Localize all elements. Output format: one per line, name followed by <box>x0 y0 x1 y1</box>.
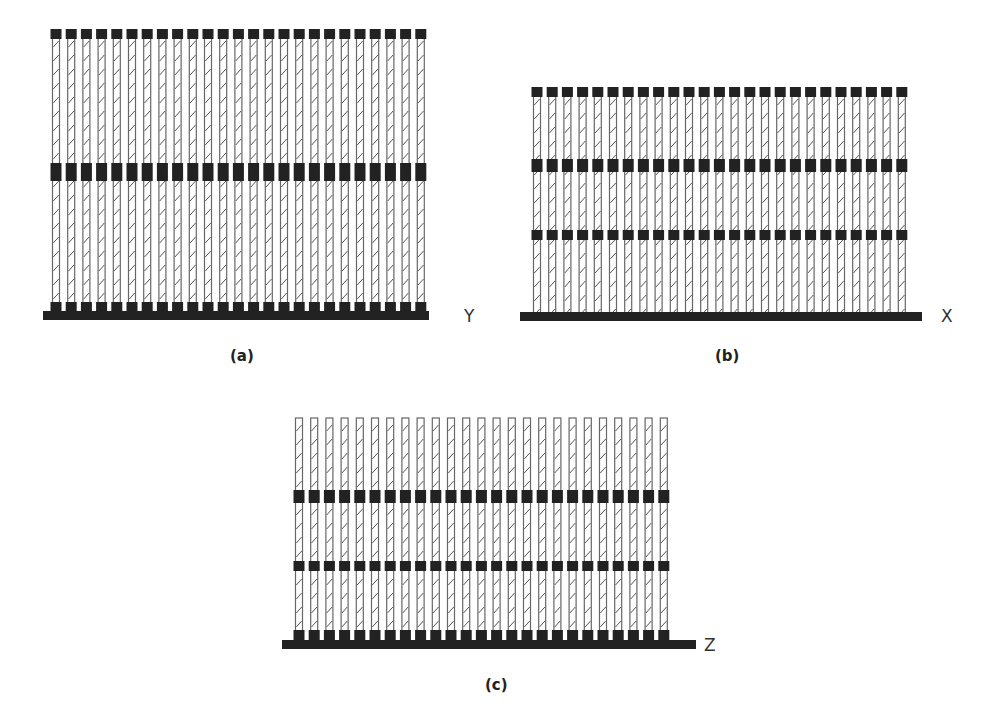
column <box>716 92 723 315</box>
block <box>714 230 725 240</box>
block <box>643 490 654 503</box>
block <box>430 561 441 571</box>
block <box>608 87 619 97</box>
block <box>896 87 907 97</box>
block <box>577 159 588 172</box>
block <box>668 159 679 172</box>
block <box>613 561 624 571</box>
block <box>187 163 198 181</box>
block <box>836 159 847 172</box>
block <box>370 561 381 571</box>
block <box>339 29 350 39</box>
block <box>491 490 502 503</box>
block <box>851 230 862 240</box>
block <box>547 87 558 97</box>
column <box>615 418 622 641</box>
caption-b: (b) <box>715 347 739 365</box>
substrate-base <box>43 311 429 320</box>
column <box>564 92 571 315</box>
block <box>370 29 381 39</box>
block <box>476 490 487 503</box>
bottom-block <box>324 630 335 641</box>
column <box>868 92 875 315</box>
block <box>532 159 543 172</box>
column <box>686 92 693 315</box>
bottom-block <box>658 630 669 641</box>
block <box>638 87 649 97</box>
block <box>744 87 755 97</box>
column <box>807 92 814 315</box>
block <box>729 87 740 97</box>
bottom-block <box>628 630 639 641</box>
bottom-block <box>370 630 381 641</box>
column <box>731 92 738 315</box>
bottom-block <box>598 630 609 641</box>
block <box>592 159 603 172</box>
column <box>838 92 845 315</box>
block <box>491 561 502 571</box>
block <box>324 163 335 181</box>
axis-label-z: Z <box>704 635 716 655</box>
block <box>339 561 350 571</box>
block <box>400 29 411 39</box>
block <box>355 163 366 181</box>
column <box>448 418 455 641</box>
block <box>172 29 183 39</box>
block <box>537 490 548 503</box>
block <box>658 561 669 571</box>
block <box>415 490 426 503</box>
bottom-block <box>461 630 472 641</box>
figure-diagram: Y (a) X (b) Z (c) <box>0 0 992 710</box>
block <box>790 159 801 172</box>
block <box>522 561 533 571</box>
column <box>625 92 632 315</box>
block <box>562 87 573 97</box>
block <box>309 29 320 39</box>
bottom-block <box>537 630 548 641</box>
block <box>592 230 603 240</box>
block <box>638 159 649 172</box>
column <box>746 92 753 315</box>
bottom-block <box>354 630 365 641</box>
block <box>790 230 801 240</box>
block <box>446 490 457 503</box>
block <box>760 230 771 240</box>
block <box>658 490 669 503</box>
block <box>613 490 624 503</box>
column <box>610 92 617 315</box>
block <box>684 230 695 240</box>
column <box>898 92 905 315</box>
block <box>430 490 441 503</box>
block <box>400 490 411 503</box>
block <box>96 29 107 39</box>
block <box>51 163 62 181</box>
column <box>417 418 424 641</box>
block <box>836 87 847 97</box>
axis-label-x: X <box>941 306 953 326</box>
block <box>400 561 411 571</box>
block <box>96 163 107 181</box>
column <box>792 92 799 315</box>
block <box>354 561 365 571</box>
block <box>233 163 244 181</box>
block <box>461 561 472 571</box>
block <box>309 163 320 181</box>
block <box>233 29 244 39</box>
block <box>567 490 578 503</box>
block <box>66 163 77 181</box>
block <box>279 163 290 181</box>
block <box>552 561 563 571</box>
column <box>372 418 379 641</box>
block <box>415 29 426 39</box>
block <box>263 163 274 181</box>
block <box>653 87 664 97</box>
block <box>684 87 695 97</box>
column <box>554 418 561 641</box>
caption-a: (a) <box>230 347 254 365</box>
block <box>653 159 664 172</box>
bottom-block <box>522 630 533 641</box>
block <box>582 561 593 571</box>
block <box>157 163 168 181</box>
bottom-block <box>552 630 563 641</box>
bottom-block <box>506 630 517 641</box>
